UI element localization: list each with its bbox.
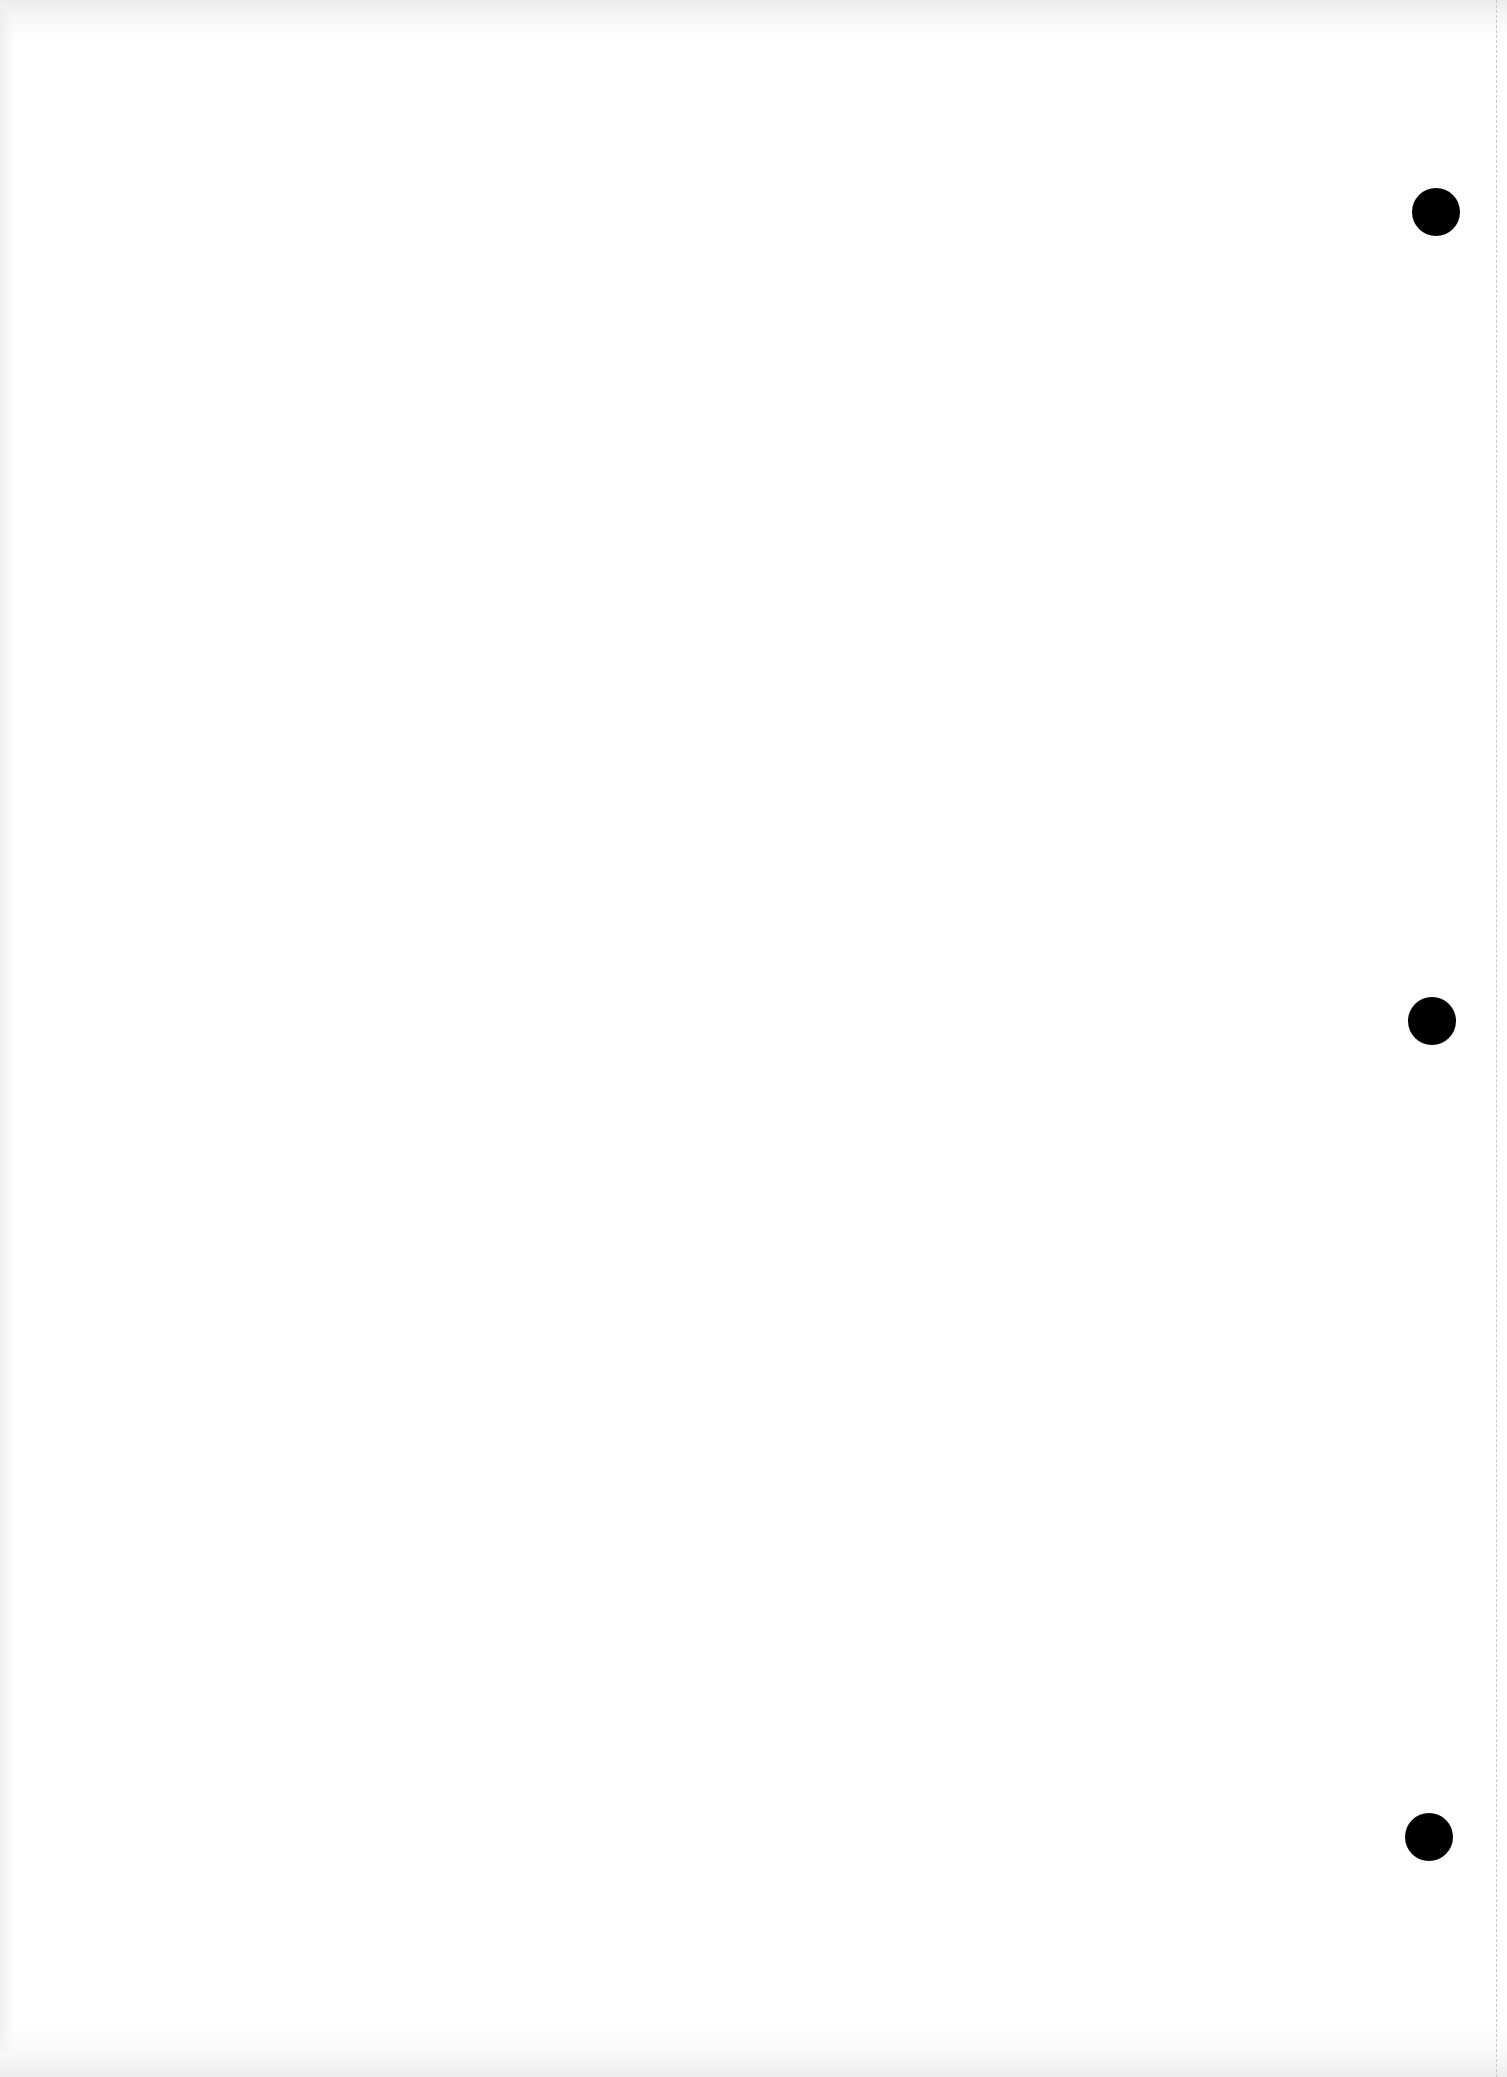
scan-shadow-bottom: [0, 2027, 1507, 2077]
punch-hole-middle: [1408, 997, 1456, 1045]
scan-shadow-top: [0, 0, 1507, 40]
scan-shadow-left: [0, 0, 14, 2077]
punch-hole-bottom: [1405, 1813, 1453, 1861]
scanned-page: [0, 0, 1507, 2077]
punch-hole-top: [1412, 188, 1460, 236]
page-edge-dashed-line: [1496, 0, 1497, 2077]
